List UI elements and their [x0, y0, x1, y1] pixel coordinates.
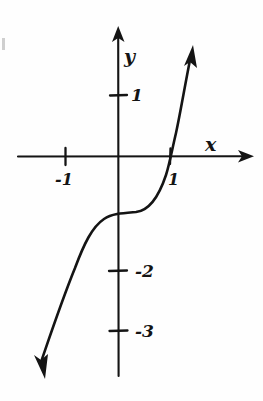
x-axis — [18, 150, 254, 163]
y-tick-1 — [110, 95, 127, 96]
y-tick-minus3 — [110, 331, 128, 332]
graph-figure: y x 1 -2 -3 -1 1 — [0, 0, 263, 401]
y-axis — [112, 26, 125, 376]
y-tick-label-minus3: -3 — [135, 321, 154, 341]
x-tick-label-1: 1 — [168, 170, 179, 189]
x-axis-label: x — [204, 133, 217, 155]
y-tick-minus2 — [109, 271, 127, 272]
curve-arrow-down-icon — [34, 354, 48, 379]
curve-arrow-up-icon — [184, 45, 197, 68]
cubic-curve-path — [41, 60, 190, 362]
y-tick-label-minus2: -2 — [135, 261, 154, 281]
paper-smudge — [2, 38, 5, 50]
x-tick-label-minus1: -1 — [55, 170, 73, 189]
y-axis-label: y — [123, 45, 137, 67]
y-tick-label-1: 1 — [131, 85, 143, 105]
graph-canvas: y x 1 -2 -3 -1 1 — [0, 0, 263, 401]
